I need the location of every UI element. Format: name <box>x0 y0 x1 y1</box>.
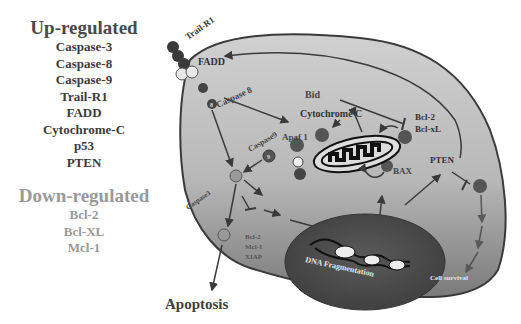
label-apoptosis: Apoptosis <box>165 296 228 313</box>
label-bcl2: Bcl-2 <box>415 112 435 122</box>
apoptosis-pathway-diagram: Trail-R1 FADD Caspase 8 Bid Cytochrome C… <box>0 0 521 324</box>
label-inhibitor-mcl1: Mcl-1 <box>245 243 263 251</box>
bcl-node <box>398 130 412 144</box>
label-trail-r1: Trail-R1 <box>183 14 216 41</box>
label-cytochrome-c: Cytochrome C <box>300 108 362 119</box>
caspase3-node <box>230 170 242 182</box>
label-c9: 9 <box>267 154 270 160</box>
label-pten: PTEN <box>430 155 455 165</box>
label-fadd: FADD <box>198 56 225 67</box>
label-apaf1: Apaf 1 <box>282 132 308 142</box>
label-bclxl: Bcl-xL <box>415 124 441 134</box>
pi3k-node <box>473 179 487 193</box>
label-inhibitor-bcl2: Bcl-2 <box>245 233 261 241</box>
caspase3-active-node <box>218 229 230 241</box>
label-bid: Bid <box>305 89 320 100</box>
label-cell-survival: Cell survival <box>430 274 468 282</box>
label-c8: 8 <box>210 102 213 108</box>
label-bax: BAX <box>393 166 413 176</box>
label-inhibitor-xiap: XIAP <box>245 253 263 261</box>
